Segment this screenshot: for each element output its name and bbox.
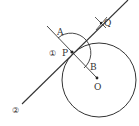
label-p: P — [62, 48, 68, 58]
tangent-line-step2 — [22, 0, 128, 104]
point-o — [96, 77, 99, 80]
label-step1: ① — [49, 49, 56, 58]
point-q — [100, 22, 102, 24]
label-o: O — [94, 82, 101, 92]
label-step2: ② — [12, 106, 19, 115]
construction-diagram: A P B O Q ① ② — [0, 0, 139, 126]
label-q: Q — [104, 18, 111, 28]
label-b: B — [90, 62, 97, 72]
point-p — [70, 50, 73, 53]
label-a: A — [56, 27, 64, 37]
